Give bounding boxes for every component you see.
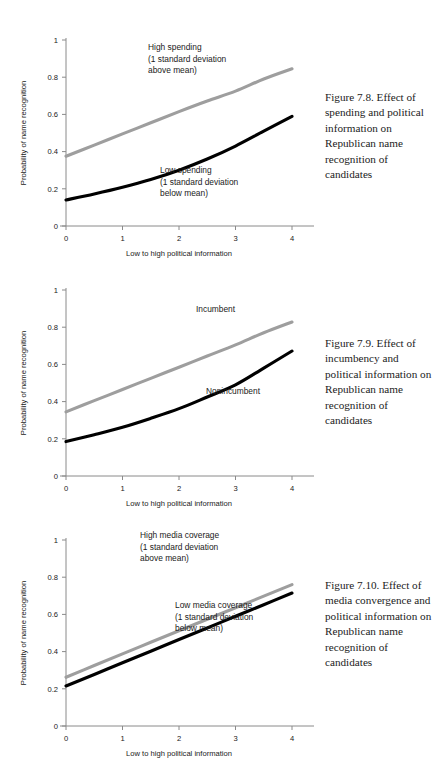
y-tick-label: 0.8	[47, 573, 58, 582]
x-tick-label: 3	[233, 484, 237, 493]
annotation-line: High spending	[148, 42, 202, 52]
figure-7-9-block: 00.20.40.60.8101234Low to high political…	[0, 258, 439, 508]
x-tick-label: 1	[120, 734, 124, 743]
y-tick-label: 0.6	[47, 110, 58, 119]
y-tick-label: 0.4	[47, 147, 58, 156]
y-tick-label: 0.4	[47, 647, 58, 656]
x-tick-label: 2	[177, 234, 181, 243]
y-tick-label: 0.8	[47, 73, 58, 82]
figure-7-8-block: 00.20.40.60.8101234Low to high political…	[0, 8, 439, 258]
series-line	[66, 69, 292, 156]
figure-7-10-block: 00.20.40.60.8101234Low to high political…	[0, 508, 439, 758]
figure-7-9-caption: Figure 7.9. Effect of incumbency and pol…	[325, 336, 437, 428]
annotation-line: Nonincumbent	[206, 386, 261, 396]
y-tick-label: 0.2	[47, 185, 58, 194]
y-tick-label: 0	[54, 472, 58, 481]
x-tick-label: 3	[233, 234, 237, 243]
x-tick-label: 4	[290, 734, 294, 743]
y-tick-label: 0.2	[47, 685, 58, 694]
annotation-line: (1 standard deviation	[140, 542, 219, 552]
y-axis-title: Probability of name recognition	[19, 81, 28, 185]
y-tick-label: 0.6	[47, 360, 58, 369]
y-axis-title: Probability of name recognition	[19, 581, 28, 685]
annotation-line: Low spending	[160, 165, 212, 175]
annotation-line: Low media coverage	[175, 600, 253, 610]
x-tick-label: 4	[290, 234, 294, 243]
y-tick-label: 0.6	[47, 610, 58, 619]
x-tick-label: 4	[290, 484, 294, 493]
x-axis-title: Low to high political information	[126, 499, 232, 508]
annotation-line: High media coverage	[140, 530, 219, 540]
annotation-line: below mean)	[160, 188, 208, 198]
annotation-line: (1 standard deviation	[175, 612, 254, 622]
chart-svg-1: 00.20.40.60.8101234Low to high political…	[0, 258, 320, 508]
series-line	[66, 322, 292, 412]
annot-nonincumbent: Nonincumbent	[206, 386, 261, 396]
figure-page: 00.20.40.60.8101234Low to high political…	[0, 0, 439, 765]
x-axis-title: Low to high political information	[126, 749, 232, 758]
x-tick-label: 2	[177, 484, 181, 493]
series-line	[66, 351, 292, 442]
annot-low-spending: Low spending(1 standard deviationbelow m…	[160, 165, 239, 198]
x-tick-label: 0	[64, 734, 68, 743]
annotation-line: above mean)	[148, 65, 197, 75]
annotation-line: above mean)	[140, 553, 189, 563]
chart-svg-0: 00.20.40.60.8101234Low to high political…	[0, 8, 320, 258]
x-tick-label: 1	[120, 484, 124, 493]
x-tick-label: 0	[64, 234, 68, 243]
annotation-line: (1 standard deviation	[160, 177, 239, 187]
x-tick-label: 3	[233, 734, 237, 743]
figure-7-10-caption: Figure 7.10. Effect of media convergence…	[325, 578, 437, 670]
x-axis-title: Low to high political information	[126, 249, 232, 258]
y-tick-label: 1	[54, 286, 58, 295]
y-tick-label: 0.2	[47, 435, 58, 444]
figure-7-8-plot: 00.20.40.60.8101234Low to high political…	[0, 8, 320, 258]
y-axis-title: Probability of name recognition	[19, 331, 28, 435]
x-tick-label: 0	[64, 484, 68, 493]
x-tick-label: 1	[120, 234, 124, 243]
y-tick-label: 1	[54, 536, 58, 545]
annotation-line: below mean)	[175, 623, 223, 633]
chart-svg-2: 00.20.40.60.8101234Low to high political…	[0, 508, 320, 758]
y-tick-label: 0.4	[47, 397, 58, 406]
figure-7-10-plot: 00.20.40.60.8101234Low to high political…	[0, 508, 320, 758]
y-tick-label: 0.8	[47, 323, 58, 332]
figure-7-8-caption: Figure 7.8. Effect of spending and polit…	[325, 90, 437, 182]
annotation-line: Incumbent	[196, 304, 236, 314]
annotation-line: (1 standard deviation	[148, 54, 227, 64]
y-tick-label: 1	[54, 36, 58, 45]
figure-7-9-plot: 00.20.40.60.8101234Low to high political…	[0, 258, 320, 508]
annot-low-media: Low media coverage(1 standard deviationb…	[175, 600, 254, 633]
annot-high-spending: High spending(1 standard deviationabove …	[148, 42, 227, 75]
x-tick-label: 2	[177, 734, 181, 743]
annot-incumbent: Incumbent	[196, 304, 236, 314]
annot-high-media: High media coverage(1 standard deviation…	[140, 530, 219, 563]
y-tick-label: 0	[54, 222, 58, 231]
y-tick-label: 0	[54, 722, 58, 731]
